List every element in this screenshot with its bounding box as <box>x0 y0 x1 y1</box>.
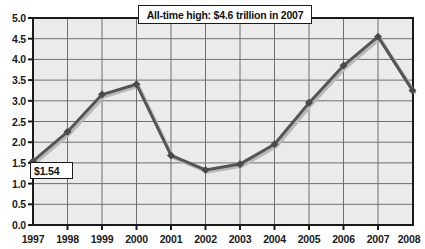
line-chart: 5.0 4.5 4.0 3.5 3.0 2.5 2.0 1.5 1.0 0.5 … <box>0 0 425 249</box>
x-tick-label-2001: 2001 <box>154 233 188 245</box>
annotation-callout: All-time high: $4.6 trillion in 2007 <box>138 5 312 24</box>
x-tick-label-2007: 2007 <box>361 233 395 245</box>
y-tick-label-3-0: 3.0 <box>0 95 26 107</box>
x-tick-label-2006: 2006 <box>327 233 361 245</box>
y-tick-label-2-0: 2.0 <box>0 136 26 148</box>
x-tick-label-2003: 2003 <box>223 233 257 245</box>
y-tick-label-4-5: 4.5 <box>0 33 26 45</box>
x-tick-label-2000: 2000 <box>120 233 154 245</box>
y-tick-label-4-0: 4.0 <box>0 53 26 65</box>
x-tick-label-2002: 2002 <box>189 233 223 245</box>
x-tick-label-1998: 1998 <box>51 233 85 245</box>
y-tick-label-2-5: 2.5 <box>0 116 26 128</box>
y-tick-label-5-0: 5.0 <box>0 12 26 24</box>
y-tick-label-3-5: 3.5 <box>0 74 26 86</box>
plot-area <box>0 0 425 249</box>
x-tick-label-1997: 1997 <box>16 233 50 245</box>
x-tick-label-2004: 2004 <box>258 233 292 245</box>
y-tick-label-1-5: 1.5 <box>0 157 26 169</box>
x-tick-label-2005: 2005 <box>292 233 326 245</box>
x-tick-label-1999: 1999 <box>85 233 119 245</box>
y-tick-label-0-5: 0.5 <box>0 198 26 210</box>
y-tick-label-1-0: 1.0 <box>0 178 26 190</box>
x-tick-label-2008: 2008 <box>392 233 425 245</box>
first-value-callout: $1.54 <box>30 162 73 179</box>
y-tick-label-0-0: 0.0 <box>0 219 26 231</box>
